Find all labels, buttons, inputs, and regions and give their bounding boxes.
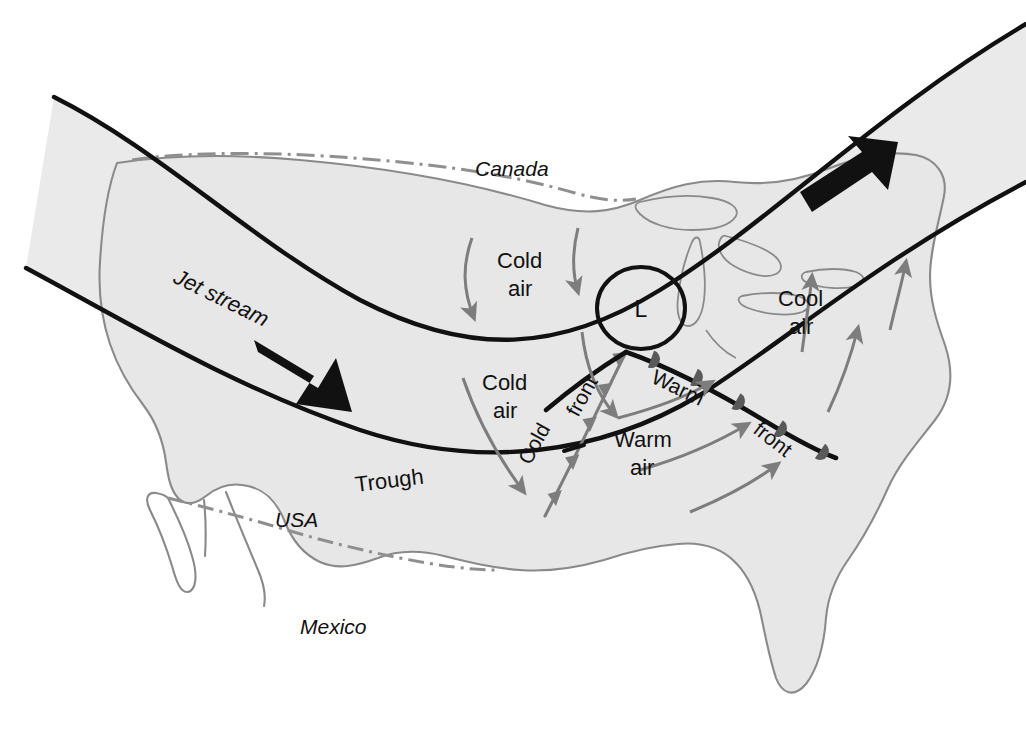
low-pressure-label: L: [635, 296, 648, 322]
label-warm-air-line1: Warm: [614, 427, 672, 452]
label-cold-air-south-line1: Cold: [482, 370, 527, 395]
baja-california-outline: [147, 493, 195, 592]
mexico-coast-line: [226, 492, 265, 606]
label-mexico: Mexico: [300, 615, 367, 638]
label-canada: Canada: [475, 157, 549, 180]
label-cold-air-north-line2: air: [508, 276, 532, 301]
label-warm-air-line2: air: [630, 455, 654, 480]
weather-map-canvas: L Canada USA Mexico Jet stream Trough Co…: [0, 0, 1026, 732]
label-cool-air-line2: air: [789, 314, 813, 339]
label-cold-air-north-line1: Cold: [497, 248, 542, 273]
label-cold-air-south-line2: air: [493, 398, 517, 423]
label-cool-air-line1: Cool: [778, 286, 823, 311]
label-usa: USA: [275, 508, 318, 531]
usa-landmass: [99, 153, 950, 692]
weather-map-figure: L Canada USA Mexico Jet stream Trough Co…: [0, 0, 1026, 732]
